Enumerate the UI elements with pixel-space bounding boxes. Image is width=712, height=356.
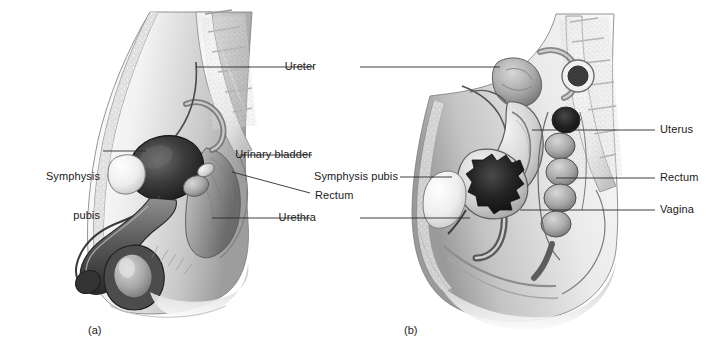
anatomy-figure: Symphysis pubis Ureter Urinary bladder S… — [0, 0, 712, 356]
label-ureter: Ureter — [250, 60, 316, 73]
female-sagittal-illustration — [412, 14, 623, 330]
caption-panel-a: (a) — [88, 324, 101, 336]
label-uterus: Uterus — [660, 123, 693, 136]
label-symphysis-pubis-male-line2: pubis — [4, 209, 100, 222]
male-symphysis-pubis — [108, 155, 145, 194]
label-symphysis-pubis-male: Symphysis pubis — [4, 144, 100, 248]
label-rectum-female: Rectum — [660, 171, 699, 184]
label-rectum-male: Rectum — [315, 189, 354, 202]
caption-panel-b: (b) — [404, 324, 417, 336]
label-urinary-bladder: Urinary bladder — [222, 148, 312, 161]
label-symphysis-pubis-male-line1: Symphysis — [4, 170, 100, 183]
label-vagina: Vagina — [660, 203, 694, 216]
label-urethra: Urethra — [258, 211, 316, 224]
label-symphysis-pubis-female: Symphysis pubis — [300, 170, 398, 183]
female-bowel-cross-section — [562, 60, 594, 92]
